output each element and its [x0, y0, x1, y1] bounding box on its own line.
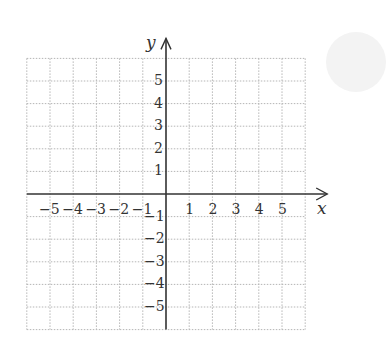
y-tick-label: 3	[154, 118, 163, 132]
x-tick-label: −2	[109, 202, 130, 216]
axes	[27, 38, 327, 329]
y-tick-label: −1	[144, 209, 165, 223]
y-axis-label: y	[146, 34, 156, 51]
x-tick-label: 4	[255, 202, 264, 216]
y-tick-label: −5	[144, 299, 165, 313]
y-tick-label: −2	[144, 231, 165, 245]
x-tick-label: −4	[62, 202, 83, 216]
y-tick-label: −4	[144, 276, 165, 290]
x-tick-label: 2	[208, 202, 217, 216]
y-tick-label: 2	[154, 141, 163, 155]
x-tick-label: 3	[232, 202, 241, 216]
y-tick-label: −3	[144, 254, 165, 268]
x-tick-label: −3	[85, 202, 106, 216]
x-tick-label: 1	[185, 202, 194, 216]
x-tick-label: −5	[39, 202, 60, 216]
y-tick-label: 1	[154, 163, 163, 177]
x-axis-label: x	[317, 200, 327, 217]
y-tick-label: 5	[154, 73, 163, 87]
x-tick-label: 5	[278, 202, 287, 216]
y-tick-label: 4	[154, 96, 163, 110]
